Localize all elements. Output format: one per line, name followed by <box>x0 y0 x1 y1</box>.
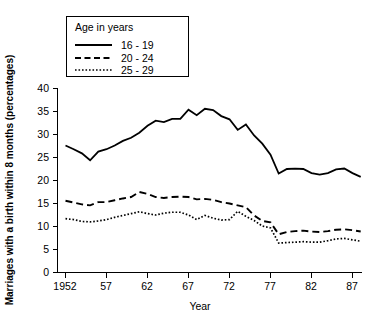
y-tick-label-15: 15 <box>37 197 49 209</box>
series-line-25-29 <box>66 211 361 243</box>
legend-label-20-24: 20 - 24 <box>121 52 154 64</box>
y-axis-ticks: 0 5 10 15 20 25 30 35 40 <box>37 82 57 278</box>
x-tick-label-1987: 87 <box>346 280 358 292</box>
x-tick-label-1982: 82 <box>305 280 317 292</box>
x-tick-label-1977: 77 <box>264 280 276 292</box>
y-tick-label-40: 40 <box>37 82 49 94</box>
line-chart: Marriages with a birth within 8 months (… <box>0 0 371 321</box>
legend-label-16-19: 16 - 19 <box>121 39 154 51</box>
y-tick-label-30: 30 <box>37 128 49 140</box>
x-tick-label-1957: 57 <box>100 280 112 292</box>
legend: Age in years 16 - 19 20 - 24 25 - 29 <box>67 17 189 77</box>
x-tick-label-1972: 72 <box>223 280 235 292</box>
y-tick-label-10: 10 <box>37 220 49 232</box>
series-line-20-24 <box>66 192 361 234</box>
y-tick-label-25: 25 <box>37 151 49 163</box>
y-tick-label-5: 5 <box>43 243 49 255</box>
legend-label-25-29: 25 - 29 <box>121 64 154 76</box>
legend-title: Age in years <box>75 21 133 33</box>
y-axis-title: Marriages with a birth within 8 months (… <box>4 55 15 306</box>
x-tick-label-1967: 67 <box>182 280 194 292</box>
x-axis-ticks: 1952 57 62 67 72 77 82 87 <box>53 273 358 293</box>
y-tick-label-20: 20 <box>37 174 49 186</box>
chart-figure: Marriages with a birth within 8 months (… <box>0 0 371 321</box>
series-line-16-19 <box>66 109 361 177</box>
x-axis-title: Year <box>189 300 211 312</box>
x-tick-label-1962: 62 <box>141 280 153 292</box>
y-tick-label-0: 0 <box>43 266 49 278</box>
y-tick-label-35: 35 <box>37 105 49 117</box>
x-tick-label-1952: 1952 <box>53 280 77 292</box>
